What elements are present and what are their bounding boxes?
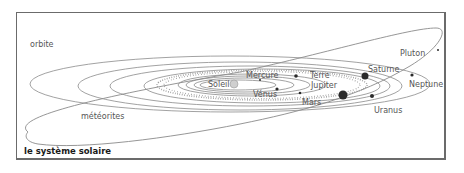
label-mercury: Mercure (246, 71, 279, 80)
label-mars: Mars (302, 98, 321, 107)
jupiter-icon (339, 91, 348, 100)
sun-icon (230, 80, 238, 88)
label-jupiter: Jupiter (310, 81, 338, 90)
label-neptune: Neptune (409, 80, 443, 89)
earth-icon (294, 74, 298, 78)
label-meteorites: météorites (81, 111, 124, 121)
diagram-title: le système solaire (24, 146, 111, 156)
pluto-icon (437, 49, 439, 51)
mars-icon (299, 92, 302, 95)
label-sun: Soleil (208, 80, 230, 89)
uranus-icon (370, 94, 374, 98)
label-orbit: orbite (30, 40, 54, 49)
label-earth: Terre (309, 71, 330, 80)
label-pluto: Pluton (400, 49, 425, 58)
label-saturn: Saturne (368, 65, 399, 74)
label-uranus: Uranus (374, 106, 402, 115)
neptune-icon (410, 73, 413, 76)
label-venus: Vénus (253, 89, 277, 99)
